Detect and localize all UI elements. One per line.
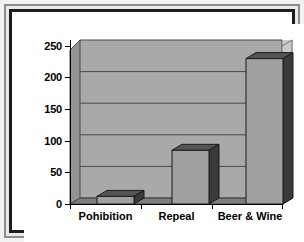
- x-axis-line: [70, 204, 282, 205]
- x-category-label-beer-and-wine: Beer & Wine: [212, 210, 288, 222]
- y-tick-label-200: 200: [28, 71, 62, 83]
- y-tick-label-150: 150: [28, 103, 62, 115]
- bar-repeal: [172, 144, 219, 204]
- y-tick-mark-250: [65, 46, 70, 47]
- y-tick-mark-200: [65, 77, 70, 78]
- bar-chart-3d: 0 50 100 150 200 250 Pohibition Repeal: [24, 24, 304, 242]
- x-tick-mark-0: [70, 204, 71, 209]
- x-tick-mark-2: [212, 204, 213, 209]
- figure-inner-frame: 0 50 100 150 200 250 Pohibition Repeal: [9, 9, 295, 233]
- x-category-label-repeal: Repeal: [141, 210, 212, 222]
- y-tick-label-250: 250: [28, 40, 62, 52]
- y-axis-line: [70, 40, 71, 204]
- x-tick-mark-3: [282, 204, 283, 209]
- y-tick-mark-50: [65, 172, 70, 173]
- x-category-label-pohibition: Pohibition: [70, 210, 141, 222]
- plot-area: 0 50 100 150 200 250 Pohibition Repeal: [24, 24, 304, 242]
- y-tick-label-0: 0: [28, 198, 62, 210]
- y-tick-label-100: 100: [28, 135, 62, 147]
- x-tick-mark-1: [141, 204, 142, 209]
- y-tick-mark-100: [65, 141, 70, 142]
- y-tick-mark-150: [65, 109, 70, 110]
- bar-pohibition: [97, 190, 144, 204]
- bar-beer-and-wine: [246, 53, 293, 204]
- y-tick-label-50: 50: [28, 166, 62, 178]
- chart-figure: 0 50 100 150 200 250 Pohibition Repeal: [0, 0, 304, 242]
